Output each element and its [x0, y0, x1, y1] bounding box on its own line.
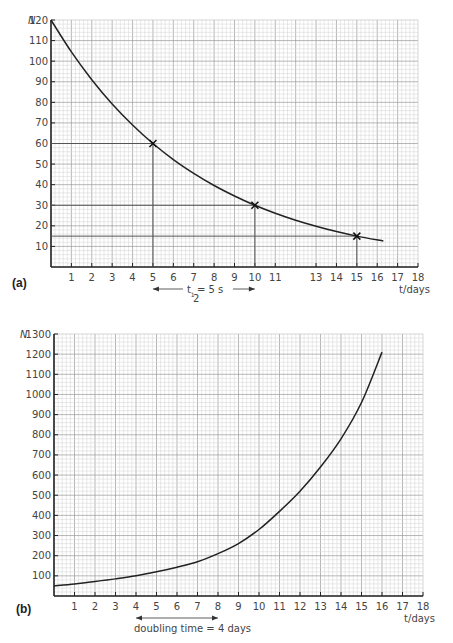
x-axis-label: t/days	[399, 284, 430, 295]
annotation: t12 = 5 s	[153, 284, 255, 305]
x-axis-label: t/days	[404, 613, 435, 624]
y-tick-label: 60	[35, 138, 48, 149]
x-tick-label: 4	[129, 272, 135, 283]
y-tick-label: 30	[35, 200, 48, 211]
x-tick-label: 3	[112, 601, 118, 612]
y-tick-label: 800	[32, 429, 51, 440]
x-tick-label: 2	[92, 601, 98, 612]
x-tick-label: 14	[335, 601, 348, 612]
x-tick-label: 10	[253, 601, 266, 612]
x-tick-label: 15	[355, 601, 368, 612]
y-tick-label: 100	[32, 570, 51, 581]
annotation: doubling time = 4 days	[134, 616, 251, 635]
x-tick-label: 11	[269, 272, 282, 283]
x-tick-label: 13	[314, 601, 327, 612]
x-tick-label: 13	[310, 272, 323, 283]
x-tick-label: 10	[249, 272, 262, 283]
y-axis-label: N	[28, 15, 36, 26]
x-tick-label: 5	[153, 601, 159, 612]
y-tick-label: 100	[29, 56, 48, 67]
y-tick-label: 1100	[26, 369, 51, 380]
y-tick-label: 1300	[26, 329, 51, 340]
x-tick-label: 9	[231, 272, 237, 283]
y-tick-label: 200	[32, 550, 51, 561]
y-tick-label: 600	[32, 470, 51, 481]
x-tick-label: 16	[371, 272, 384, 283]
panel-label: (a)	[12, 276, 27, 290]
y-tick-label: 500	[32, 490, 51, 501]
y-axis-label: N	[20, 329, 28, 340]
y-tick-label: 40	[35, 179, 48, 190]
y-tick-label: 10	[35, 241, 48, 252]
x-tick-label: 15	[350, 272, 363, 283]
y-tick-label: 20	[35, 220, 48, 231]
y-tick-label: 1200	[26, 349, 51, 360]
grid	[54, 334, 423, 596]
y-tick-label: 50	[35, 159, 48, 170]
panel-label: (b)	[16, 602, 31, 616]
half-life-value: = 5 s	[197, 284, 223, 295]
chart-b: 1002003004005006007008009001000110012001…	[16, 329, 435, 635]
y-tick-label: 70	[35, 117, 48, 128]
x-tick-label: 8	[215, 601, 221, 612]
y-tick-label: 700	[32, 449, 51, 460]
x-tick-label: 17	[396, 601, 409, 612]
x-tick-label: 6	[170, 272, 176, 283]
y-tick-label: 300	[32, 530, 51, 541]
x-tick-label: 11	[273, 601, 286, 612]
x-tick-label: 14	[330, 272, 343, 283]
x-tick-label: 17	[391, 272, 404, 283]
x-tick-label: 6	[174, 601, 180, 612]
y-tick-label: 90	[35, 76, 48, 87]
x-tick-label: 4	[133, 601, 139, 612]
svg-text:2: 2	[193, 293, 199, 304]
x-tick-label: 9	[235, 601, 241, 612]
doubling-time-label: doubling time = 4 days	[134, 623, 251, 634]
chart-a: 102030405060708090100110120N123456789101…	[12, 15, 430, 305]
x-tick-label: 18	[417, 601, 430, 612]
y-tick-label: 1000	[26, 389, 51, 400]
x-tick-label: 2	[89, 272, 95, 283]
x-tick-label: 7	[194, 601, 200, 612]
x-tick-label: 18	[412, 272, 425, 283]
y-tick-label: 80	[35, 97, 48, 108]
x-tick-label: 1	[68, 272, 74, 283]
x-tick-label: 8	[211, 272, 217, 283]
figure: 102030405060708090100110120N123456789101…	[0, 0, 453, 643]
x-tick-label: 3	[109, 272, 115, 283]
y-tick-label: 900	[32, 409, 51, 420]
y-tick-label: 400	[32, 510, 51, 521]
x-tick-label: 12	[294, 601, 307, 612]
x-tick-label: 1	[71, 601, 77, 612]
x-tick-label: 7	[191, 272, 197, 283]
y-tick-label: 110	[29, 35, 48, 46]
x-tick-label: 5	[150, 272, 156, 283]
x-tick-label: 16	[376, 601, 389, 612]
